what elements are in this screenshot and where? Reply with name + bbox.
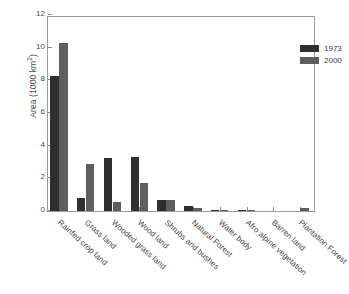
legend-item-1973[interactable]: 1973 bbox=[300, 43, 342, 53]
y-axis-title-superscript: 2 bbox=[26, 57, 33, 61]
bar-1973-2 bbox=[104, 158, 113, 211]
bar-1973-1 bbox=[77, 198, 86, 211]
bar-1973-4 bbox=[157, 200, 166, 211]
bar-1973-5 bbox=[184, 206, 193, 211]
legend: 19732000 bbox=[300, 43, 342, 67]
bar-2000-9 bbox=[300, 208, 309, 211]
y-axis-tick: 10 bbox=[48, 47, 52, 48]
legend-swatch-1973 bbox=[300, 45, 319, 52]
bar-1973-3 bbox=[131, 157, 140, 211]
bar-1973-0 bbox=[50, 76, 59, 211]
bar-2000-1 bbox=[86, 164, 95, 211]
bar-2000-6 bbox=[220, 210, 229, 211]
plot-area: 024681012 19732000 bbox=[47, 16, 315, 212]
bar-1973-7 bbox=[238, 210, 247, 211]
bar-2000-3 bbox=[140, 183, 149, 211]
bar-2000-7 bbox=[247, 210, 256, 211]
bar-1973-6 bbox=[211, 210, 220, 211]
x-axis-label-0: Rainfed crop land bbox=[56, 218, 109, 267]
x-axis-tick bbox=[273, 207, 274, 211]
y-axis-tick-label: 8 bbox=[41, 74, 45, 83]
y-axis-tick-label: 12 bbox=[36, 9, 45, 18]
x-axis-label-9: Plantation Forest bbox=[297, 218, 349, 266]
legend-item-2000[interactable]: 2000 bbox=[300, 55, 342, 65]
y-axis-tick-label: 10 bbox=[36, 42, 45, 51]
legend-label-1973: 1973 bbox=[324, 44, 342, 53]
legend-label-2000: 2000 bbox=[324, 56, 342, 65]
y-axis-tick-label: 2 bbox=[41, 172, 45, 181]
y-axis-title-text: Area (1000 km bbox=[28, 61, 38, 118]
y-axis-tick-label: 4 bbox=[41, 140, 45, 149]
y-axis-tick-label: 0 bbox=[41, 205, 45, 214]
bar-2000-0 bbox=[59, 43, 68, 211]
y-axis-title: Area (1000 km2) bbox=[26, 21, 38, 151]
y-axis-tick: 12 bbox=[48, 14, 52, 15]
bar-2000-2 bbox=[113, 202, 122, 211]
y-axis-tick-label: 6 bbox=[41, 107, 45, 116]
bar-2000-5 bbox=[193, 208, 202, 211]
legend-swatch-2000 bbox=[300, 57, 319, 64]
y-axis-title-tail: ) bbox=[28, 54, 38, 57]
bar-2000-4 bbox=[166, 200, 175, 211]
